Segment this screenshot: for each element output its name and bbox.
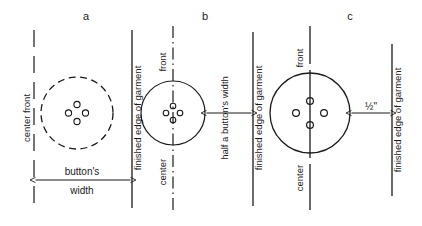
panel-c-finished-edge-label: finished edge of garment (392, 67, 403, 172)
panel-c-button-hole (293, 110, 300, 117)
panel-b-button-hole (163, 110, 169, 116)
panel-c-dimension-label: ½" (365, 101, 377, 112)
panel-a-dimension-label-line1: button's (65, 166, 100, 177)
panel-c: c front center finished edge of garment … (270, 10, 403, 210)
panel-a-button-outline (41, 77, 113, 149)
panel-c-button-hole (321, 110, 328, 117)
panel-c-center-front-label-bottom: center (294, 165, 305, 191)
panel-c-letter: c (347, 10, 353, 22)
panel-b-finished-edge-label: finished edge of garment (253, 65, 264, 170)
panel-a-button-hole (74, 118, 80, 124)
panel-b-center-front-label-top: front (157, 52, 168, 71)
panel-b: b front center finished edge of garment … (141, 10, 264, 210)
panel-c-center-front-label-top: front (294, 48, 305, 67)
panel-b-dimension-label: half a button's width (219, 76, 230, 160)
panel-a-button-hole (82, 110, 88, 116)
panel-a-button-hole (65, 110, 71, 116)
panel-a-letter: a (83, 10, 90, 22)
panel-b-letter: b (202, 10, 208, 22)
panel-b-center-front-label-bottom: center (157, 159, 168, 185)
panel-b-button-hole (177, 110, 183, 116)
panel-a: a center front finished edge of garment … (21, 10, 143, 208)
panel-a-center-front-label: center front (21, 94, 32, 142)
diagram-canvas: a center front finished edge of garment … (0, 0, 422, 226)
panel-a-button-hole (74, 101, 80, 107)
panel-a-dimension-label-line2: width (69, 185, 93, 196)
button-placement-diagram: a center front finished edge of garment … (0, 0, 422, 226)
